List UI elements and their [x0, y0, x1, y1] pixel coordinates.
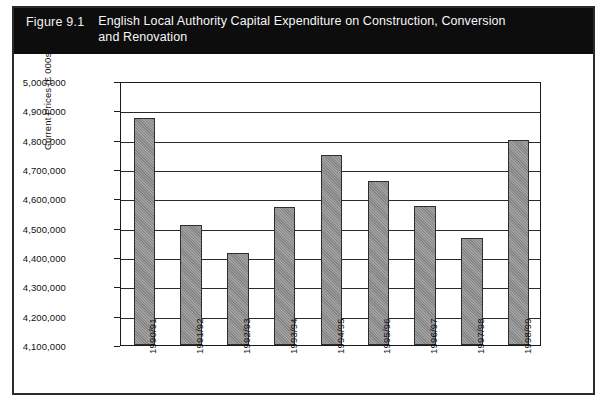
y-axis-tick-label: 4,800,000 [0, 135, 66, 146]
x-axis-tick-label: 1994/95 [335, 318, 346, 354]
bar-slot [448, 83, 495, 345]
y-axis-title: Current Prices (£ 000s) [42, 0, 53, 150]
x-axis-tick-label: 1998/99 [522, 318, 533, 354]
bar-slot [215, 83, 262, 345]
y-axis-tick-label: 4,400,000 [0, 253, 66, 264]
y-axis-tick-label: 4,200,000 [0, 311, 66, 322]
y-axis-tick-label: 4,700,000 [0, 165, 66, 176]
bar-slot [121, 83, 168, 345]
bar[interactable] [508, 140, 530, 345]
x-axis-tick-label: 1997/98 [475, 318, 486, 354]
bar-slot [402, 83, 449, 345]
x-axis-tick-label: 1995/96 [381, 318, 392, 354]
x-axis-tick-label: 1992/93 [241, 318, 252, 354]
chart-body: Current Prices (£ 000s) 5,000,0004,900,0… [14, 54, 593, 393]
y-axis-tick-label: 5,000,000 [0, 77, 66, 88]
figure-number: Figure 9.1 [26, 14, 84, 29]
x-axis-tick-label: 1991/92 [194, 318, 205, 354]
bars-layer [121, 83, 540, 345]
y-axis-tick-label: 4,100,000 [0, 341, 66, 352]
bar-slot [495, 83, 542, 345]
bar[interactable] [321, 155, 343, 345]
y-axis-tick-label: 4,600,000 [0, 194, 66, 205]
y-axis-tick-label: 4,500,000 [0, 223, 66, 234]
bar-slot [168, 83, 215, 345]
x-axis-tick-label: 1993/94 [288, 318, 299, 354]
figure-title-bar: Figure 9.1 English Local Authority Capit… [14, 8, 593, 54]
y-axis-tick-label: 4,300,000 [0, 282, 66, 293]
y-axis-tick-label: 4,900,000 [0, 106, 66, 117]
x-axis-tick-label: 1990/91 [147, 318, 158, 354]
figure-frame: Figure 9.1 English Local Authority Capit… [12, 6, 595, 395]
x-axis-tick-label: 1996/97 [428, 318, 439, 354]
plot-area [120, 82, 541, 346]
bar-slot [355, 83, 402, 345]
bar-slot [308, 83, 355, 345]
bar-slot [261, 83, 308, 345]
bar[interactable] [134, 118, 156, 345]
y-axis-tick-mark [114, 346, 120, 347]
page-title: English Local Authority Capital Expendit… [98, 14, 528, 45]
